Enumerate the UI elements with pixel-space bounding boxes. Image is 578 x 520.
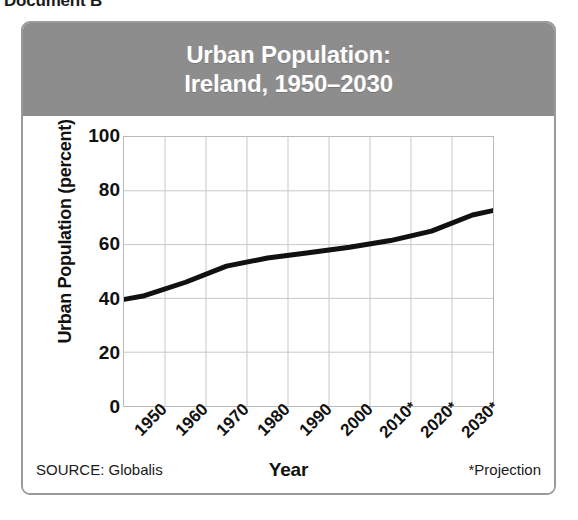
chart-body: Urban Population (percent) 020406080100 … <box>23 116 554 493</box>
chart-title-banner: Urban Population: Ireland, 1950–2030 <box>23 23 554 116</box>
y-axis-title: Urban Population (percent) <box>55 92 76 372</box>
y-axis-tick-labels: 020406080100 <box>75 136 120 407</box>
chart-title-line-1: Urban Population: <box>186 41 391 69</box>
y-tick-60: 60 <box>99 233 120 255</box>
chart-plot-svg <box>124 137 493 406</box>
projection-note: *Projection <box>468 461 541 478</box>
grid-lines <box>124 137 493 406</box>
y-tick-20: 20 <box>99 342 120 364</box>
plot-area <box>123 136 494 407</box>
y-tick-40: 40 <box>99 288 120 310</box>
chart-footer: SOURCE: Globalis Year *Projection <box>23 461 554 485</box>
document-label: Document B <box>4 0 102 11</box>
chart-card: Urban Population: Ireland, 1950–2030 Urb… <box>21 21 556 495</box>
y-tick-0: 0 <box>109 396 120 418</box>
y-tick-80: 80 <box>99 179 120 201</box>
urban-population-line <box>124 211 493 300</box>
chart-title-line-2: Ireland, 1950–2030 <box>184 70 393 98</box>
y-tick-100: 100 <box>88 125 120 147</box>
